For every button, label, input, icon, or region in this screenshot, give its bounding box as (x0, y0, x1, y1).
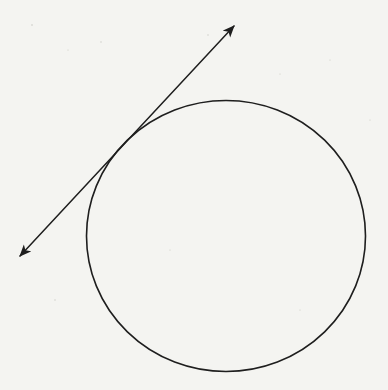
background (0, 0, 388, 390)
diagram-canvas (0, 0, 388, 390)
